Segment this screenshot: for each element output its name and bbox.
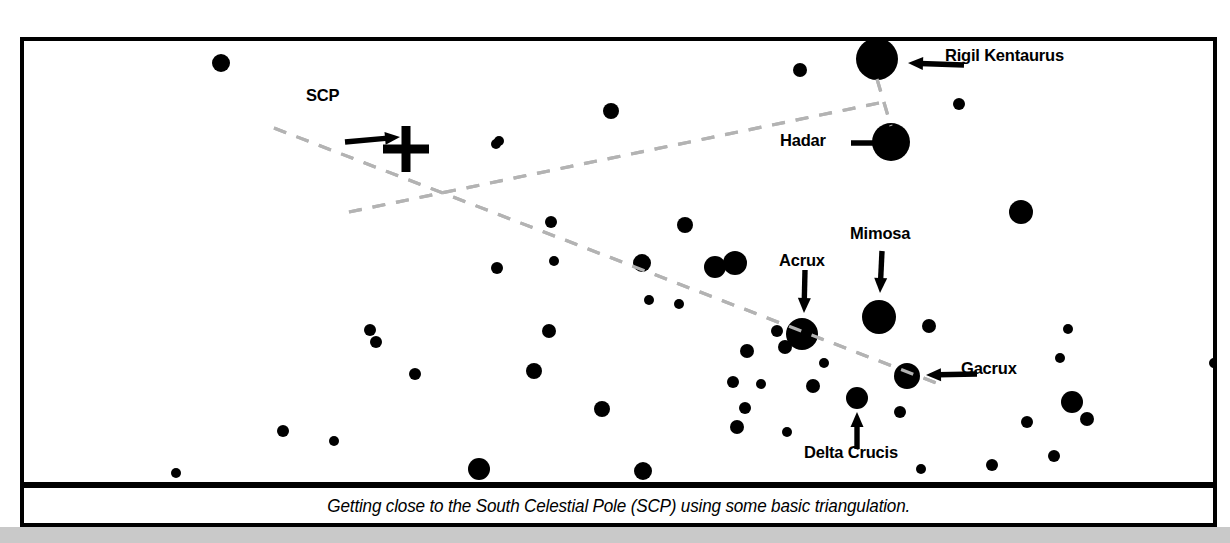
figure-frame: SCP Rigil Kentaurus Hadar Mimosa Acrux G… [20, 37, 1217, 527]
annotation-arrows-group [345, 57, 977, 449]
label-hadar: Hadar [780, 131, 826, 150]
field-star [526, 363, 542, 379]
field-star [771, 325, 783, 337]
star-chart-canvas: SCP Rigil Kentaurus Hadar Mimosa Acrux G… [24, 41, 1213, 482]
field-star [704, 256, 726, 278]
field-star [542, 324, 556, 338]
field-star [756, 379, 766, 389]
field-star [922, 319, 936, 333]
field-star [545, 216, 557, 228]
figure-caption: Getting close to the South Celestial Pol… [327, 495, 910, 517]
field-star [723, 251, 747, 275]
field-star [409, 368, 421, 380]
figure-caption-band: Getting close to the South Celestial Pol… [24, 482, 1213, 523]
label-mimosa: Mimosa [850, 224, 910, 243]
named-star-mimosa [862, 300, 896, 334]
field-star [782, 427, 792, 437]
scp-cross-marker [383, 126, 429, 172]
named-star-delta-crucis [846, 387, 868, 409]
named-star-rigil-kentaurus [856, 41, 898, 80]
arrow-acrux-head [798, 298, 811, 313]
field-stars-group [171, 54, 1213, 480]
guide-line-overlay-rigil-hadar-join [877, 79, 891, 126]
field-star [953, 98, 965, 110]
field-star [793, 63, 807, 77]
field-star [277, 425, 289, 437]
field-star [819, 358, 829, 368]
star-chart-svg [24, 41, 1213, 482]
field-star [1061, 391, 1083, 413]
field-star [1009, 200, 1033, 224]
field-star [212, 54, 230, 72]
field-star [468, 458, 490, 480]
label-gacrux: Gacrux [961, 359, 1017, 378]
field-star [1209, 358, 1213, 368]
scp-cross-vertical [402, 126, 411, 172]
field-star [740, 344, 754, 358]
field-star [364, 324, 376, 336]
arrow-delta-crucis-head [851, 412, 864, 427]
field-star [1063, 324, 1073, 334]
field-star [1055, 353, 1065, 363]
field-star [603, 103, 619, 119]
label-acrux: Acrux [779, 251, 825, 270]
named-star-gacrux [894, 363, 920, 389]
field-star [727, 376, 739, 388]
figure-page: SCP Rigil Kentaurus Hadar Mimosa Acrux G… [0, 0, 1230, 543]
field-star [1021, 416, 1033, 428]
field-star [370, 336, 382, 348]
field-star [1080, 412, 1094, 426]
arrow-mimosa-shaft [881, 251, 882, 281]
field-star [894, 406, 906, 418]
field-star [171, 468, 181, 478]
label-scp: SCP [306, 86, 339, 105]
arrow-scp-head [384, 132, 400, 145]
field-star [329, 436, 339, 446]
field-star [549, 256, 559, 266]
field-star [677, 217, 693, 233]
arrow-mimosa-head [874, 278, 887, 293]
guide-line-overlay-pointer-line-alpha-beta-cen [349, 103, 879, 212]
arrow-acrux-shaft [804, 270, 805, 301]
arrow-scp-shaft [345, 138, 388, 142]
label-delta-crucis: Delta Crucis [804, 443, 898, 462]
field-star [1048, 450, 1060, 462]
field-star [916, 464, 926, 474]
field-star [739, 402, 751, 414]
field-star [644, 295, 654, 305]
field-star [674, 299, 684, 309]
page-bottom-strip [0, 527, 1230, 543]
field-star [986, 459, 998, 471]
field-star [491, 139, 501, 149]
label-rigil-kentaurus: Rigil Kentaurus [945, 46, 1064, 65]
field-star [634, 462, 652, 480]
field-star [806, 379, 820, 393]
field-star [594, 401, 610, 417]
field-star [491, 262, 503, 274]
arrow-rigil-head [908, 57, 923, 70]
field-star [730, 420, 744, 434]
